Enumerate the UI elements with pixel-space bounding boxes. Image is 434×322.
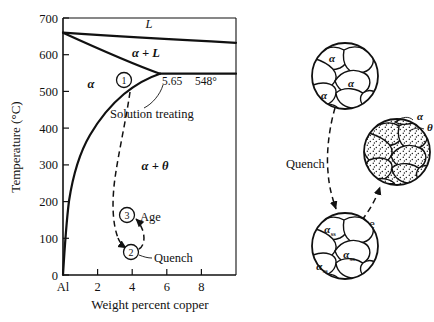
region-label-alpha: α [88, 77, 96, 91]
solution-treating-leader [144, 85, 163, 108]
region-label-liquid: L [145, 17, 153, 31]
step-marker-2[interactable]: 2 [124, 245, 139, 260]
y-tick-label-100: 100 [39, 232, 58, 246]
step-marker-3[interactable]: 3 [120, 208, 135, 223]
region-label-alpha-plus-l: α + L [132, 46, 160, 60]
x-tick-label-6: 6 [164, 280, 170, 294]
step-marker-1[interactable]: 1 [117, 73, 132, 88]
solidus-line [63, 33, 236, 43]
phase-boundaries [63, 33, 236, 275]
x-tick-label-8: 8 [198, 280, 204, 294]
grain-label-alpha-1: α [329, 52, 336, 64]
step-marker-1-label: 1 [122, 75, 127, 86]
grain-label-alpha-2: α [348, 77, 355, 89]
x-axis-tick-labels: Al 2 4 6 8 [57, 280, 205, 294]
step-marker-3-label: 3 [125, 210, 130, 221]
solvus-line [63, 74, 160, 275]
step-marker-2-label: 2 [129, 247, 134, 258]
quench-arrow-segment [118, 238, 126, 248]
y-tick-label-500: 500 [39, 85, 58, 99]
age-label-plot: Age [140, 210, 161, 224]
x-axis-title: Weight percent copper [91, 297, 209, 312]
figure-root: 700 600 500 400 300 200 100 0 Al 2 4 6 8… [0, 0, 434, 322]
y-tick-label-200: 200 [39, 195, 58, 209]
solution-treating-label: Solution treating [110, 107, 194, 121]
grain-label-alpha-3: α [321, 89, 328, 101]
y-tick-label-600: 600 [39, 48, 58, 62]
y-tick-label-700: 700 [39, 12, 58, 26]
aged-callout-theta: θ [427, 121, 433, 133]
y-tick-label-300: 300 [39, 158, 58, 172]
x-tick-label-al: Al [57, 280, 70, 294]
aged-callout-alpha: α [417, 110, 424, 122]
quench-label-micro: Quench [286, 157, 326, 171]
eutectic-composition-label: 5.65 [162, 75, 182, 87]
phase-diagram-figure: 700 600 500 400 300 200 100 0 Al 2 4 6 8… [0, 0, 434, 322]
x-tick-label-4: 4 [129, 280, 136, 294]
aged-microstructure: α θ [355, 110, 434, 193]
x-axis-ticks [63, 269, 201, 275]
quench-arrow-micro [327, 108, 336, 209]
y-axis-tick-labels: 700 600 500 400 300 200 100 0 [39, 12, 58, 283]
region-label-alpha-plus-theta: α + θ [142, 159, 169, 173]
quenched-microstructure: αss αss αss [308, 213, 378, 279]
y-tick-label-400: 400 [39, 122, 58, 136]
quench-label-plot: Quench [154, 251, 194, 265]
age-arrow-micro [362, 187, 380, 220]
solution-treated-microstructure: α α α [308, 43, 378, 109]
x-tick-label-2: 2 [94, 280, 100, 294]
y-axis-title: Temperature (°C) [8, 101, 23, 192]
quench-leader [139, 255, 152, 258]
eutectic-temperature-label: 548° [195, 75, 217, 87]
